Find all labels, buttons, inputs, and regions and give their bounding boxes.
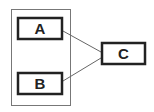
node-b: B — [18, 73, 62, 94]
node-c-label: C — [118, 45, 129, 62]
node-a: A — [18, 18, 62, 39]
edge-a-to-c — [63, 31, 101, 52]
node-b-label: B — [35, 75, 46, 92]
diagram-canvas: A B C — [0, 0, 154, 112]
node-c: C — [102, 43, 145, 64]
node-a-label: A — [35, 20, 46, 37]
edge-b-to-c — [63, 58, 101, 81]
